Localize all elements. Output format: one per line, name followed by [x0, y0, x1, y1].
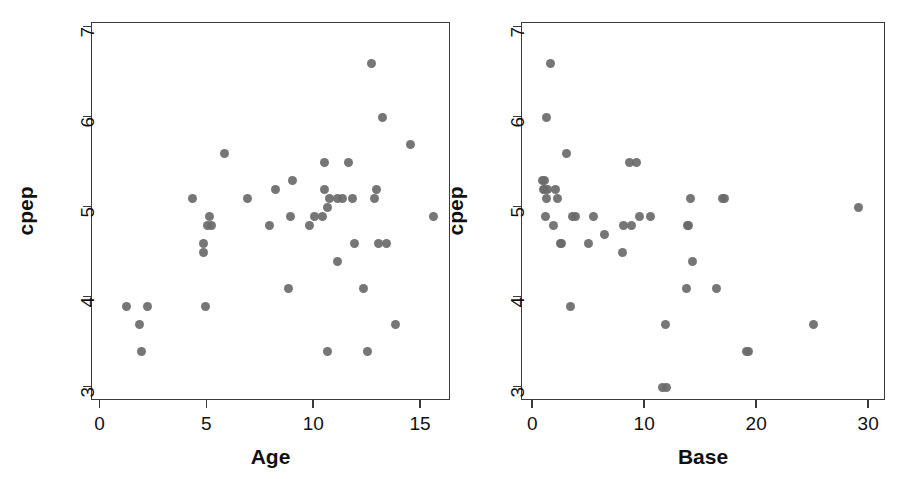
data-point — [350, 239, 359, 248]
data-point — [188, 194, 197, 203]
data-point — [135, 320, 144, 329]
data-point — [284, 284, 293, 293]
x-axis-tick — [312, 400, 314, 408]
base-points-layer — [522, 23, 884, 399]
data-point — [546, 59, 555, 68]
data-point — [288, 176, 297, 185]
data-point — [271, 185, 280, 194]
data-point — [661, 320, 670, 329]
y-axis-tick-label: 4 — [507, 297, 529, 308]
x-axis-tick-label: 30 — [858, 413, 879, 435]
data-point — [348, 194, 357, 203]
data-point — [122, 302, 131, 311]
age-x-axis-title: Age — [251, 445, 291, 469]
data-point — [382, 239, 391, 248]
data-point — [391, 320, 400, 329]
y-axis-tick-label: 6 — [77, 117, 99, 128]
data-point — [323, 203, 332, 212]
y-axis-tick-label: 4 — [77, 297, 99, 308]
x-axis-tick — [531, 400, 533, 408]
data-point — [553, 194, 562, 203]
data-point — [199, 248, 208, 257]
data-point — [320, 158, 329, 167]
y-axis-tick-label: 3 — [77, 387, 99, 398]
x-axis-tick-label: 20 — [746, 413, 767, 435]
data-point — [199, 239, 208, 248]
data-point — [542, 113, 551, 122]
age-plot-frame — [91, 22, 450, 400]
data-point — [320, 185, 329, 194]
data-point — [429, 212, 438, 221]
data-point — [538, 176, 547, 185]
data-point — [584, 239, 593, 248]
data-point — [344, 158, 353, 167]
base-plot-frame — [521, 22, 885, 400]
data-point — [809, 320, 818, 329]
x-axis-tick — [867, 400, 869, 408]
data-point — [686, 194, 695, 203]
data-point — [744, 347, 753, 356]
data-point — [688, 257, 697, 266]
y-axis-tick-label: 6 — [507, 117, 529, 128]
scatterplot-figure: 05101534567 Age cpep 010203034567 Base c… — [0, 0, 916, 479]
data-point — [378, 113, 387, 122]
data-point — [143, 302, 152, 311]
data-point — [370, 194, 379, 203]
data-point — [220, 149, 229, 158]
data-point — [662, 383, 671, 392]
data-point — [557, 239, 566, 248]
y-axis-tick-label: 7 — [507, 27, 529, 38]
data-point — [338, 194, 347, 203]
data-point — [712, 284, 721, 293]
y-axis-tick-label: 5 — [507, 207, 529, 218]
x-axis-tick — [643, 400, 645, 408]
base-y-axis-title: cpep — [444, 186, 468, 235]
x-axis-tick-label: 15 — [410, 413, 431, 435]
data-point — [363, 347, 372, 356]
data-point — [359, 284, 368, 293]
x-axis-tick — [755, 400, 757, 408]
x-axis-tick-label: 0 — [527, 413, 538, 435]
x-axis-tick-label: 5 — [201, 413, 212, 435]
data-point — [205, 212, 214, 221]
age-points-layer — [92, 23, 449, 399]
data-point — [406, 140, 415, 149]
data-point — [566, 302, 575, 311]
age-y-axis-title: cpep — [14, 186, 38, 235]
data-point — [646, 212, 655, 221]
data-point — [625, 158, 634, 167]
data-point — [720, 194, 729, 203]
data-point — [600, 230, 609, 239]
data-point — [318, 212, 327, 221]
x-axis-tick-label: 10 — [634, 413, 655, 435]
data-point — [627, 221, 636, 230]
x-axis-tick — [99, 400, 101, 408]
y-axis-tick-label: 5 — [77, 207, 99, 218]
data-point — [589, 212, 598, 221]
data-point — [618, 248, 627, 257]
data-point — [367, 59, 376, 68]
data-point — [310, 212, 319, 221]
y-axis-tick-label: 7 — [77, 27, 99, 38]
data-point — [333, 257, 342, 266]
data-point — [549, 221, 558, 230]
x-axis-tick — [206, 400, 208, 408]
data-point — [541, 212, 550, 221]
data-point — [243, 194, 252, 203]
data-point — [201, 302, 210, 311]
data-point — [323, 347, 332, 356]
data-point — [305, 221, 314, 230]
y-axis-tick-label: 3 — [507, 387, 529, 398]
data-point — [286, 212, 295, 221]
base-x-axis-title: Base — [678, 445, 728, 469]
data-point — [551, 185, 560, 194]
data-point — [571, 212, 580, 221]
data-point — [137, 347, 146, 356]
data-point — [539, 185, 548, 194]
x-axis-tick-label: 0 — [94, 413, 105, 435]
data-point — [619, 221, 628, 230]
data-point — [562, 149, 571, 158]
data-point — [265, 221, 274, 230]
data-point — [203, 221, 212, 230]
x-axis-tick-label: 10 — [303, 413, 324, 435]
